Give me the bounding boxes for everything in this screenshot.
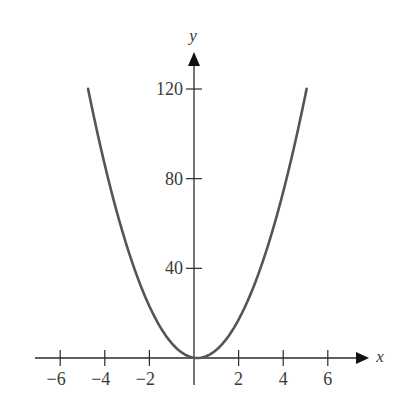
x-tick-label: 2 [234,369,243,389]
x-tick-label: −2 [136,369,155,389]
x-tick-label: −4 [91,369,110,389]
y-axis-arrow-icon [188,52,200,66]
parabola-chart: x y −6−4−2246 4080120 [0,0,405,411]
y-tick-label: 40 [165,258,183,278]
x-axis-arrow-icon [356,352,369,364]
x-tick-label: −6 [47,369,66,389]
y-axis-label: y [187,26,197,45]
x-axis-label: x [375,347,384,366]
x-tick-label: 6 [323,369,332,389]
parabola-curve [88,89,307,358]
y-tick-label: 80 [165,169,183,189]
x-tick-label: 4 [279,369,288,389]
y-ticks: 4080120 [156,79,202,278]
y-tick-label: 120 [156,79,183,99]
